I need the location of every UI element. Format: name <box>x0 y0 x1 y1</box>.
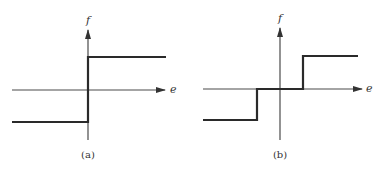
figure: f e (a) f e (b) <box>0 0 377 169</box>
caption: (a) <box>81 149 95 160</box>
x-axis-label: e <box>170 83 177 96</box>
y-axis-label: f <box>277 12 284 25</box>
panel-a: f e (a) <box>12 14 177 160</box>
panel-b: f e (b) <box>203 12 373 160</box>
caption: (b) <box>273 149 287 160</box>
y-axis-label: f <box>85 14 92 27</box>
x-axis-label: e <box>366 82 373 95</box>
